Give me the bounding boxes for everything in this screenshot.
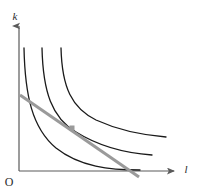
isoquant-isocost-figure: k l O <box>0 0 198 196</box>
x-axis-label: l <box>184 163 187 175</box>
origin-label: O <box>5 175 14 189</box>
y-axis-label: k <box>13 10 19 22</box>
figure-canvas: k l O <box>0 0 198 196</box>
isoquant-curve-middle <box>42 48 152 155</box>
isoquant-curve-outer <box>61 48 166 137</box>
tangency-point-marker <box>70 126 75 131</box>
